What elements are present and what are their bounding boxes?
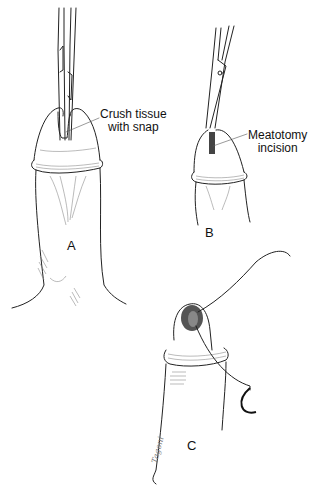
annotation-line: with snap [100, 121, 167, 134]
annotation-line: incision [248, 142, 307, 155]
panel-label-c: C [187, 438, 196, 453]
panel-label-a: A [67, 238, 76, 253]
panel-c-drawing [153, 251, 290, 484]
panel-label-b: B [205, 225, 214, 240]
illustration-canvas [0, 0, 323, 490]
annotation-meatotomy-incision: Meatotomy incision [248, 129, 307, 155]
panel-a-drawing [12, 8, 126, 308]
incision-mark [209, 132, 215, 154]
panel-b-drawing [192, 26, 250, 225]
annotation-crush-tissue: Crush tissue with snap [100, 108, 167, 134]
